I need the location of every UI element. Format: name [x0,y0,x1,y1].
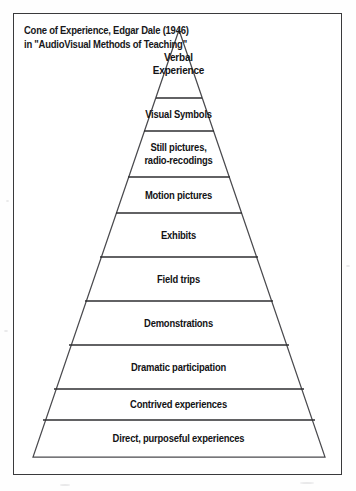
scan-surface: Cone of Experience, Edgar Dale (1946) in… [0,0,356,491]
scan-speck [60,484,70,486]
cone-outline-group [33,30,325,457]
pyramid-svg [14,14,343,476]
scan-speck [300,482,314,484]
cone-of-experience-pyramid [14,14,343,476]
cone-outline [33,30,325,457]
figure-frame: Cone of Experience, Edgar Dale (1946) in… [13,13,342,475]
scan-speck [346,265,350,267]
scan-speck [4,330,8,332]
scan-speck [6,200,9,202]
